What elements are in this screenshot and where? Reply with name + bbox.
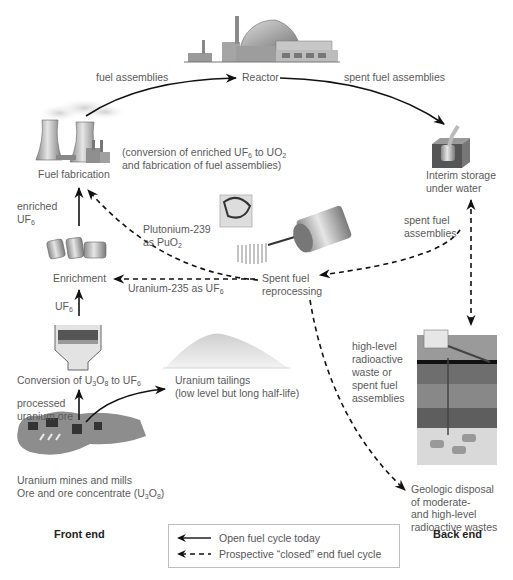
spent-fuel-assemblies-label: spent fuel assemblies [344, 71, 445, 84]
processed-uranium-ore-label: processeduranium ore [17, 397, 73, 422]
geologic-disposal-label: Geologic disposalof moderate-and high-le… [411, 483, 497, 533]
arrow-fabrication-to-reactor [86, 78, 236, 116]
front-end-heading: Front end [54, 528, 105, 541]
spent-fuel-reprocessing-label: Spent fuelreprocessing [262, 272, 322, 297]
uranium-tailings-label: Uranium tailings(low level but long half… [175, 374, 299, 399]
enrichment-label: Enrichment [53, 272, 106, 285]
solid-arrow-icon [177, 533, 213, 543]
high-level-waste-label: high-levelradioactivewaste orspent fuela… [352, 340, 405, 405]
reactor-label: Reactor [242, 71, 279, 84]
back-end-heading: Back end [433, 528, 482, 541]
legend: Open fuel cycle today Prospective “close… [168, 524, 400, 568]
uranium-mines-label: Uranium mines and millsOre and ore conce… [17, 474, 164, 499]
spent-fuel-assemblies-storage-label: spent fuelassemblies [404, 214, 457, 239]
conversion-label: Conversion of U3O8 to UF6 [17, 374, 141, 387]
plutonium-label: Plutonium-239as PuO2 [143, 223, 211, 248]
uf6-label: UF6 [55, 300, 73, 313]
legend-item-open-cycle: Open fuel cycle today [177, 531, 320, 545]
arrow-mines-to-tailings [86, 389, 165, 422]
fuel-assemblies-label: fuel assemblies [96, 71, 168, 84]
fabrication-note: (conversion of enriched UF6 to UO2and fa… [122, 146, 286, 171]
interim-storage-label: Interim storageunder water [426, 169, 496, 194]
legend-item-closed-cycle: Prospective “closed” end fuel cycle [177, 547, 381, 561]
fuel-fabrication-label: Fuel fabrication [38, 168, 110, 181]
arrow-reactor-to-storage [280, 78, 444, 124]
legend-label-open: Open fuel cycle today [219, 532, 320, 544]
legend-label-closed: Prospective “closed” end fuel cycle [219, 548, 381, 560]
uranium-235-label: Uranium-235 as UF6 [128, 282, 224, 295]
dashed-arrow-icon [177, 549, 213, 559]
enriched-uf6-label: enrichedUF6 [17, 200, 57, 225]
